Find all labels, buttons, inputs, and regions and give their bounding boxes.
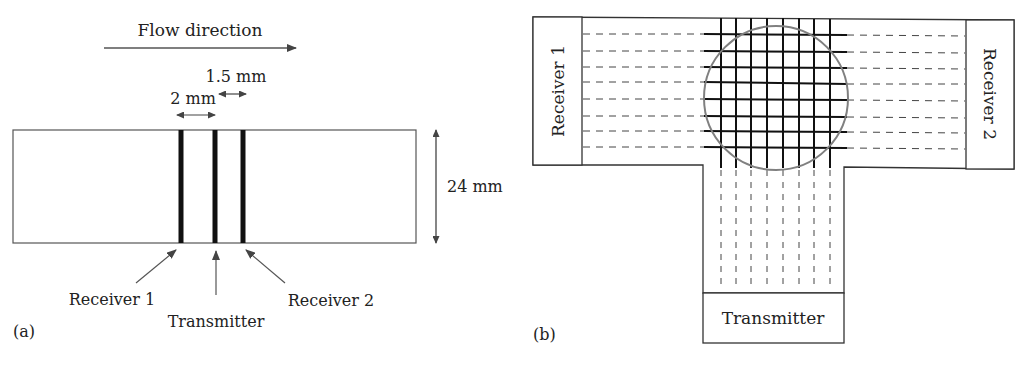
panel-b: Receiver 1 Receiver 2 Transmitter — [533, 17, 1014, 344]
spacing-label-2mm: 2 mm — [170, 89, 216, 108]
receiver1-label: Receiver 1 — [69, 290, 155, 309]
t-junction-outline — [533, 17, 1014, 293]
panel-a: Flow direction 1.5 mm 2 mm 24 mm Receive… — [13, 20, 503, 341]
transmitter-label: Transmitter — [168, 312, 265, 331]
receiver2-label: Receiver 2 — [288, 291, 374, 310]
height-label-24mm: 24 mm — [447, 177, 503, 196]
figure-canvas: Flow direction 1.5 mm 2 mm 24 mm Receive… — [0, 0, 1019, 366]
receiver1-pointer-arrow — [136, 250, 176, 283]
transmitter-box-label: Transmitter — [722, 308, 826, 328]
panel-b-tag: (b) — [533, 325, 556, 344]
panel-a-tag: (a) — [13, 322, 35, 341]
flow-direction-label: Flow direction — [138, 20, 263, 40]
receiver2-pointer-arrow — [246, 250, 285, 283]
spacing-label-1-5mm: 1.5 mm — [206, 67, 267, 86]
receiver1-box-label: Receiver 1 — [548, 45, 568, 137]
receiver2-box-label: Receiver 2 — [980, 48, 1000, 140]
